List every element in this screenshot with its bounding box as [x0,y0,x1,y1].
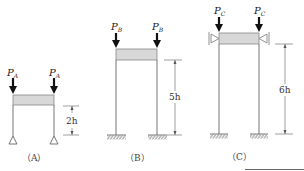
svg-text:PB: PB [110,21,123,33]
arrow-down-icon [9,86,17,94]
load-b-right: PB [151,21,164,48]
load-a-left: PA [6,67,19,94]
frame-b: PB PB 5h （B） [107,21,182,163]
fixed-support-icon [250,134,268,139]
load-b-left: PB [110,21,123,48]
svg-text:PC: PC [213,5,226,17]
dimension-a: 2h [63,106,79,135]
dimension-c: 6h [275,44,293,134]
lateral-support-right-icon [259,32,269,45]
fixed-support-icon [210,134,228,139]
rigid-beam-c [219,33,259,44]
arrow-down-icon [255,24,263,32]
load-c-left: PC [213,5,226,32]
fixed-support-icon [107,135,126,140]
svg-text:PA: PA [6,67,19,79]
load-a-right: PA [48,67,61,94]
lateral-support-left-icon [209,32,219,45]
svg-text:2h: 2h [66,116,78,126]
dimension-b: 5h [164,60,182,135]
svg-text:PC: PC [253,5,266,17]
svg-text:PB: PB [151,21,164,33]
pin-support-icon [50,136,58,144]
svg-text:6h: 6h [279,85,291,95]
arrow-down-icon [112,40,120,48]
svg-text:5h: 5h [169,92,181,102]
caption-b: （B） [125,153,150,163]
load-c-right: PC [253,5,266,32]
frame-a: PA PA 2h （A） [6,67,79,163]
arrow-down-icon [153,40,161,48]
arrow-down-icon [50,86,58,94]
caption-c: （C） [227,152,252,162]
caption-a: （A） [22,153,47,163]
rigid-beam-b [116,49,157,60]
fixed-support-icon [148,135,167,140]
pin-support-icon [9,136,17,144]
svg-text:PA: PA [48,67,61,79]
frame-c: PC PC [209,5,293,162]
arrow-down-icon [215,24,223,32]
rigid-beam-a [13,95,54,105]
